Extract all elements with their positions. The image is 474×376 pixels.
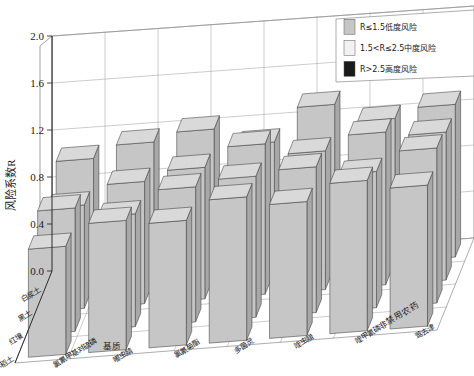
bar-side-face: [307, 188, 312, 335]
y-tick-label: 1.6: [30, 77, 44, 89]
bar-side-face: [427, 172, 432, 326]
risk-coefficient-3d-bar-chart: 0.00.40.81.21.62.0 风险系数R 白浆土黑土红壤水稻土 基质 氯…: [0, 0, 474, 376]
legend-label-medium-risk: 1.5<R≤2.5中度风险: [360, 43, 436, 53]
bar-side-face: [75, 195, 80, 332]
z-tick-label: 红壤: [7, 330, 25, 346]
bar-side-face: [376, 158, 381, 308]
bar[interactable]: [89, 207, 132, 353]
bar-side-face: [446, 119, 451, 280]
y-axis-label: 风险系数R: [4, 159, 17, 211]
y-tick-label: 0.4: [30, 218, 44, 230]
bar-side-face: [455, 91, 460, 257]
bar-front-face: [149, 220, 186, 347]
bar-front-face: [270, 202, 307, 339]
bar-side-face: [196, 173, 201, 321]
y-tick-label: 1.2: [30, 124, 44, 136]
z-tick-label: 水稻土: [0, 353, 16, 373]
bar[interactable]: [270, 188, 313, 338]
legend-label-low-risk: R≤1.5低度风险: [360, 22, 417, 32]
bar-side-face: [126, 207, 131, 350]
legend-swatch-low-risk: [344, 19, 355, 34]
bar-side-face: [66, 233, 71, 354]
bar-side-face: [247, 184, 252, 341]
y-tick-label: 0.8: [30, 171, 44, 183]
bar-front-face: [209, 197, 246, 343]
y-tick-label: 0.0: [30, 265, 44, 277]
bar-side-face: [316, 153, 321, 312]
bar-front-face: [330, 180, 367, 333]
bar[interactable]: [330, 167, 373, 334]
bar-side-face: [437, 135, 442, 303]
legend-swatch-high-risk: [344, 61, 355, 76]
y-tick-label: 2.0: [30, 30, 44, 42]
bar-side-face: [135, 201, 140, 327]
bar-side-face: [186, 207, 191, 345]
bar-side-face: [367, 167, 372, 331]
bar[interactable]: [209, 184, 252, 344]
z-axis-label: 基质: [103, 341, 121, 351]
bar-side-face: [256, 163, 261, 317]
legend: R≤1.5低度风险1.5<R≤2.5中度风险R>2.5高度风险: [336, 10, 474, 82]
legend-swatch-medium-risk: [344, 40, 355, 55]
chart-root: 0.00.40.81.21.62.0 风险系数R 白浆土黑土红壤水稻土 基质 氯…: [0, 0, 474, 376]
bar-front-face: [89, 220, 126, 352]
legend-label-high-risk: R>2.5高度风险: [360, 64, 417, 74]
bar[interactable]: [149, 207, 192, 348]
bar-front-face: [28, 246, 65, 357]
